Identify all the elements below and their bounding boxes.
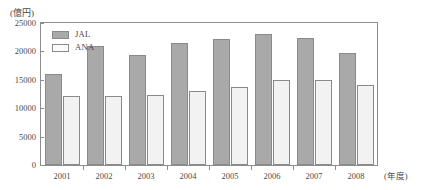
x-axis-tick-mark	[293, 166, 294, 170]
bar-jal-2002	[87, 46, 104, 165]
bar-jal-2001	[45, 74, 62, 165]
x-axis-tick-label: 2008	[336, 171, 376, 181]
x-axis-tick-mark	[167, 166, 168, 170]
x-axis-tick-label: 2005	[210, 171, 250, 181]
x-axis-tick-label: 2007	[294, 171, 334, 181]
x-axis-tick-label: 2002	[84, 171, 124, 181]
y-axis-tick-label: 25000	[0, 19, 36, 28]
x-axis-tick-mark	[251, 166, 252, 170]
bar-ana-2003	[147, 95, 164, 165]
bar-ana-2001	[63, 96, 80, 165]
x-axis-tick-mark	[83, 166, 84, 170]
bar-jal-2004	[171, 43, 188, 165]
y-axis-unit-caption: (億円)	[10, 8, 34, 19]
y-axis-tick-label: 15000	[0, 76, 36, 85]
bar-jal-2007	[297, 38, 314, 165]
x-axis-tick-label: 2001	[42, 171, 82, 181]
legend-label-jal: JAL	[75, 30, 91, 39]
legend-swatch-icon-jal	[52, 31, 69, 39]
bar-jal-2008	[339, 53, 356, 165]
bar-ana-2002	[105, 96, 122, 165]
x-axis-unit-caption: (年度)	[384, 171, 408, 181]
legend-label-ana: ANA	[75, 43, 94, 52]
bar-chart-figure: (億円) 0500010000150002000025000 200120022…	[0, 0, 422, 190]
legend-item-jal: JAL	[52, 29, 94, 40]
bar-ana-2005	[231, 87, 248, 165]
x-axis-tick-mark	[209, 166, 210, 170]
bar-ana-2004	[189, 91, 206, 165]
x-axis-tick-label: 2004	[168, 171, 208, 181]
legend-item-ana: ANA	[52, 42, 94, 53]
legend-swatch-icon-ana	[52, 44, 69, 52]
y-axis-tick-label: 20000	[0, 47, 36, 56]
x-axis-tick-mark	[125, 166, 126, 170]
y-axis-tick-label: 0	[0, 161, 36, 170]
y-axis-tick-label: 10000	[0, 104, 36, 113]
bar-ana-2006	[273, 80, 290, 165]
x-axis-tick-label: 2006	[252, 171, 292, 181]
chart-legend: JAL ANA	[52, 29, 94, 55]
bar-ana-2008	[357, 85, 374, 165]
x-axis-tick-label: 2003	[126, 171, 166, 181]
bar-jal-2003	[129, 55, 146, 165]
x-axis-tick-mark	[335, 166, 336, 170]
bar-jal-2005	[213, 39, 230, 165]
bar-ana-2007	[315, 80, 332, 165]
bar-jal-2006	[255, 34, 272, 165]
y-axis-tick-label: 5000	[0, 133, 36, 142]
